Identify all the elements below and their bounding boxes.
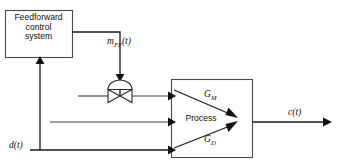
process-label: Process	[176, 114, 226, 124]
gd-symbol: G	[204, 134, 211, 144]
d-argument: (t)	[14, 140, 23, 150]
m-ff-symbol: m	[107, 36, 114, 46]
controlled-variable-label: c(t)	[288, 107, 301, 118]
gm-subscript: M	[211, 94, 217, 101]
feedforward-manipulated-signal-label: mFF(t)	[107, 36, 131, 48]
controlled-output-arrowhead-icon	[323, 118, 332, 127]
disturbance-label: d(t)	[9, 140, 23, 151]
gd-subscript: D	[211, 139, 216, 146]
gm-label: GM	[204, 89, 216, 101]
gm-symbol: G	[204, 89, 211, 99]
block-diagram-canvas: Feedforward control system Process mFF(t…	[0, 0, 345, 165]
c-argument: (t)	[292, 107, 301, 117]
m-ff-argument: (t)	[122, 36, 131, 46]
control-valve-icon[interactable]	[108, 80, 132, 103]
feedforward-control-system-label: Feedforward control system	[6, 13, 71, 42]
m-ff-subscript: FF	[114, 41, 122, 48]
gd-label: GD	[204, 134, 216, 146]
